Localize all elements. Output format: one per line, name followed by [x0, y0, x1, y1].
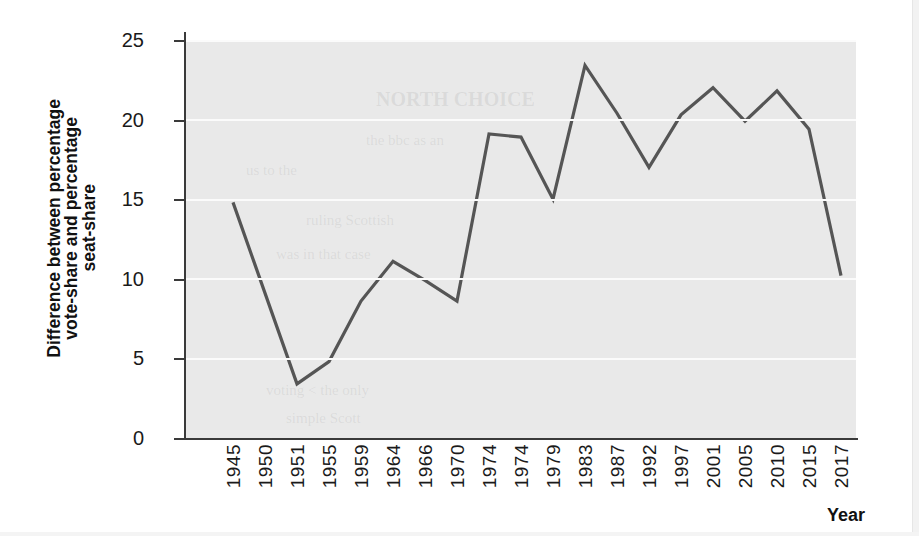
plot-container: NORTH CHOICE the bbc as an us to the rul…	[152, 32, 858, 442]
page-edge-right	[912, 0, 919, 536]
y-tick-mark	[174, 358, 185, 360]
y-tick-mark	[174, 40, 185, 42]
page-edge-bottom	[0, 532, 919, 536]
x-tick-label: 1974	[479, 444, 501, 488]
x-tick-label: 1974	[511, 444, 533, 488]
y-tick-mark	[174, 199, 185, 201]
x-tick-label: 2001	[703, 444, 725, 488]
y-tick-mark	[174, 120, 185, 122]
x-tick-label: 1951	[287, 444, 309, 488]
x-tick-label: 1959	[351, 444, 373, 488]
x-tick-label: 2010	[767, 444, 789, 488]
y-tick-label: 15	[122, 188, 144, 211]
x-tick-label: 1992	[639, 444, 661, 488]
x-axis-line	[184, 438, 858, 440]
x-tick-label: 1945	[223, 444, 245, 488]
gridline-10	[186, 278, 856, 280]
x-tick-label: 2005	[735, 444, 757, 488]
y-tick-mark	[174, 279, 185, 281]
y-tick-mark	[174, 438, 185, 440]
y-axis-line	[184, 32, 186, 440]
x-tick-label: 1970	[447, 444, 469, 488]
plot-area: NORTH CHOICE the bbc as an us to the rul…	[186, 40, 856, 438]
x-tick-label: 2017	[831, 444, 853, 488]
x-axis-title: Year	[827, 505, 865, 526]
x-tick-label: 1950	[255, 444, 277, 488]
x-axis-ticks: 1945195019511955195919641966197019741974…	[152, 444, 858, 520]
y-tick-label: 25	[122, 29, 144, 52]
x-tick-label: 1983	[575, 444, 597, 488]
gridline-25	[186, 40, 856, 42]
gridline-15	[186, 199, 856, 201]
chart-figure: Difference between percentage vote-share…	[0, 0, 919, 536]
x-tick-label: 2015	[799, 444, 821, 488]
y-tick-label: 0	[133, 427, 144, 450]
y-tick-label: 5	[133, 347, 144, 370]
gridline-20	[186, 119, 856, 121]
x-tick-label: 1964	[383, 444, 405, 488]
y-tick-label: 20	[122, 108, 144, 131]
y-axis-title: Difference between percentage vote-share…	[24, 18, 120, 438]
x-tick-label: 1979	[543, 444, 565, 488]
x-tick-label: 1997	[671, 444, 693, 488]
x-tick-label: 1955	[319, 444, 341, 488]
x-tick-label: 1966	[415, 444, 437, 488]
y-axis-title-line-3: seat-share	[81, 184, 99, 272]
gridline-5	[186, 358, 856, 360]
x-tick-label: 1987	[607, 444, 629, 488]
data-series-line	[186, 40, 856, 438]
y-tick-label: 10	[122, 267, 144, 290]
